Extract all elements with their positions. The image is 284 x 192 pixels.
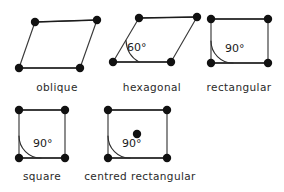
lattice-point	[61, 106, 69, 114]
angle-label-hexagonal: 60°	[127, 41, 147, 54]
cell-label-square: square	[23, 170, 61, 182]
lattice-point	[15, 154, 23, 162]
lattice-point	[104, 154, 112, 162]
angle-label-centred-rectangular: 90°	[122, 137, 142, 150]
lattice-point	[15, 64, 23, 72]
lattice-point	[135, 14, 143, 22]
lattice-point	[31, 18, 39, 26]
rectangular-outline	[211, 19, 268, 63]
cell-label-centred-rectangular: centred rectangular	[84, 170, 196, 182]
lattice-point	[163, 106, 171, 114]
cell-label-hexagonal: hexagonal	[123, 81, 181, 93]
lattice-point	[264, 59, 272, 67]
hexagonal-outline	[113, 17, 197, 62]
lattice-point	[109, 58, 117, 66]
lattice-point	[93, 16, 101, 24]
lattice-point	[104, 106, 112, 114]
lattice-point	[264, 15, 272, 23]
lattice-point	[207, 59, 215, 67]
hexagonal-top-edge	[139, 17, 197, 18]
lattice-point	[76, 64, 84, 72]
cell-label-oblique: oblique	[36, 81, 78, 93]
lattice-point	[207, 15, 215, 23]
angle-label-square: 90°	[33, 137, 53, 150]
lattice-point	[163, 154, 171, 162]
cell-square: 90° square	[15, 106, 69, 182]
lattice-point	[15, 106, 23, 114]
cell-centred-rectangular: 90° centred rectangular	[84, 106, 196, 182]
lattice-figure: oblique 60° hexagonal 90° rectan	[0, 0, 284, 192]
oblique-outline	[19, 20, 97, 68]
cell-label-rectangular: rectangular	[207, 81, 272, 93]
cell-hexagonal: 60° hexagonal	[109, 13, 201, 93]
oblique-top-edge	[35, 20, 97, 22]
cell-oblique: oblique	[15, 16, 101, 93]
lattice-diagram-svg: oblique 60° hexagonal 90° rectan	[0, 0, 284, 192]
lattice-point	[167, 58, 175, 66]
lattice-point	[193, 13, 201, 21]
square-outline	[19, 110, 65, 158]
lattice-point	[61, 154, 69, 162]
cell-rectangular: 90° rectangular	[207, 15, 273, 93]
angle-label-rectangular: 90°	[225, 42, 245, 55]
